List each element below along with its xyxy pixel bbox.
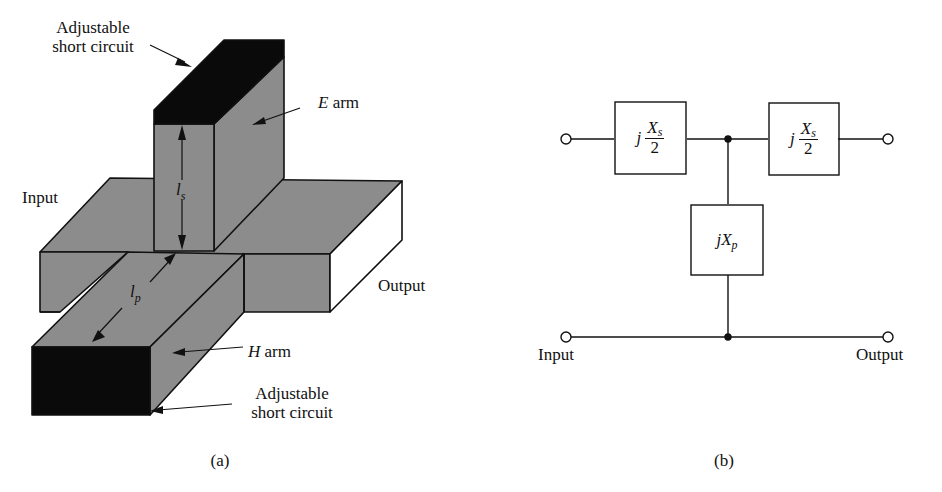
ls-sub: s: [181, 189, 186, 203]
bottom-short-circuit-line1: Adjustable: [236, 384, 348, 403]
bottom-short-circuit-line2: short circuit: [236, 403, 348, 422]
diagram-canvas: [0, 0, 942, 492]
series-right-num-sub: s: [811, 126, 816, 140]
output-terminal-top: [883, 134, 893, 144]
top-short-circuit-line1: Adjustable: [38, 18, 148, 37]
output-label-b: Output: [856, 345, 903, 364]
shunt-main: X: [721, 230, 731, 250]
output-label-a: Output: [378, 276, 425, 295]
junction-node-bottom: [725, 334, 731, 340]
series-left-fraction: Xs 2: [645, 119, 664, 157]
h-arm-short-circuit: [32, 347, 150, 415]
series-left-num-sub: s: [658, 125, 663, 139]
input-label-b: Input: [538, 345, 574, 364]
shunt-sub: p: [732, 238, 738, 253]
series-impedance-right-label: j Xs 2: [769, 103, 839, 175]
lp-label: lp: [130, 282, 141, 303]
series-right-prefix: j: [790, 129, 795, 149]
e-arm-word: arm: [333, 93, 359, 112]
series-left-den: 2: [645, 139, 664, 157]
series-right-num: X: [801, 119, 811, 138]
output-arm-front-face: [244, 254, 330, 312]
caption-a: (a): [200, 451, 240, 470]
top-short-circuit-label: Adjustable short circuit: [38, 18, 148, 56]
shunt-impedance-label: jXp: [691, 205, 763, 275]
junction-node-top: [725, 136, 731, 142]
input-terminal-top: [561, 134, 571, 144]
input-label-a: Input: [22, 188, 58, 207]
series-left-prefix: j: [637, 128, 642, 148]
h-arm-letter: H: [248, 342, 260, 361]
h-arm-label: H arm: [248, 342, 291, 361]
top-short-circuit-line2: short circuit: [38, 37, 148, 56]
ls-label: ls: [176, 180, 185, 201]
caption-b: (b): [704, 451, 744, 470]
e-arm-label: E arm: [318, 93, 359, 112]
series-right-den: 2: [799, 140, 818, 158]
input-terminal-bottom: [561, 332, 571, 342]
series-left-num: X: [647, 118, 657, 137]
output-terminal-bottom: [883, 332, 893, 342]
e-arm-letter: E: [318, 93, 328, 112]
series-impedance-left-label: j Xs 2: [615, 102, 686, 174]
lp-sub: p: [135, 291, 141, 305]
series-right-fraction: Xs 2: [799, 120, 818, 158]
h-arm-word: arm: [265, 342, 291, 361]
bottom-short-circuit-label: Adjustable short circuit: [236, 384, 348, 422]
